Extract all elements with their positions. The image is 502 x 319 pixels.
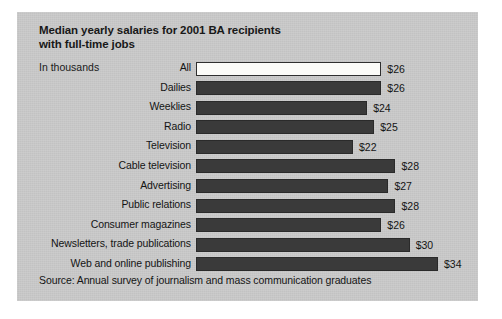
bar-category-label: Advertising <box>140 179 191 191</box>
bar-category-label: Public relations <box>121 198 191 210</box>
bar-value-label: $30 <box>416 239 434 251</box>
chart-panel: Median yearly salaries for 2001 BA recip… <box>17 12 478 301</box>
bar-row: Web and online publishing$34 <box>17 256 478 276</box>
chart-title: Median yearly salaries for 2001 BA recip… <box>39 24 439 51</box>
bar-category-label: Web and online publishing <box>71 257 191 269</box>
bar-row: Cable television$28 <box>17 158 478 178</box>
bar-value-label: $28 <box>401 200 419 212</box>
bar-row: Television$22 <box>17 138 478 158</box>
bar-value-label: $24 <box>373 102 391 114</box>
bar-row: Newsletters, trade publications$30 <box>17 236 478 256</box>
bar-row: All$26 <box>17 60 478 80</box>
bar-category-label: Television <box>146 139 191 151</box>
bar-value-label: $26 <box>387 219 405 231</box>
bar-value-label: $26 <box>387 82 405 94</box>
bar-category-label: Newsletters, trade publications <box>51 237 191 249</box>
bar-value-label: $25 <box>380 121 398 133</box>
bar-rows: All$26Dailies$26Weeklies$24Radio$25Telev… <box>17 60 478 276</box>
bar-row: Radio$25 <box>17 119 478 139</box>
bar <box>196 179 388 193</box>
chart-page: Median yearly salaries for 2001 BA recip… <box>0 0 502 319</box>
bar-category-label: Weeklies <box>149 100 191 112</box>
bar-category-label: Dailies <box>160 81 191 93</box>
bar-value-label: $22 <box>359 141 377 153</box>
bar-value-label: $34 <box>444 258 462 270</box>
bar <box>196 120 374 134</box>
bar <box>196 218 381 232</box>
bar-category-label: Radio <box>164 120 191 132</box>
bar <box>196 101 367 115</box>
bar <box>196 81 381 95</box>
bar-category-label: Consumer magazines <box>91 218 191 230</box>
bar-row: Consumer magazines$26 <box>17 217 478 237</box>
bar-category-label: All <box>180 61 191 73</box>
bar <box>196 140 353 154</box>
bar <box>196 159 395 173</box>
bar <box>196 257 438 271</box>
bar <box>196 238 410 252</box>
bar-row: Weeklies$24 <box>17 99 478 119</box>
bar-row: Advertising$27 <box>17 178 478 198</box>
source-note: Source: Annual survey of journalism and … <box>39 274 371 286</box>
bar-value-label: $28 <box>401 160 419 172</box>
bar <box>196 199 395 213</box>
bar-category-label: Cable television <box>118 159 191 171</box>
bar-row: Dailies$26 <box>17 80 478 100</box>
bar-value-label: $27 <box>394 180 412 192</box>
bar-row: Public relations$28 <box>17 197 478 217</box>
bar-value-label: $26 <box>387 63 405 75</box>
bar <box>196 62 381 76</box>
